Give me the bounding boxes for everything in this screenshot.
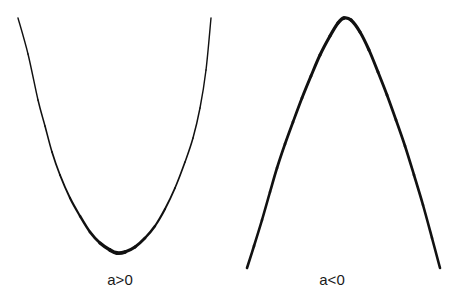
parabola-chart-canvas bbox=[0, 0, 462, 301]
parabola-figure: a>0 a<0 bbox=[0, 0, 462, 301]
panel-label-a-greater-than-zero: a>0 bbox=[107, 272, 132, 287]
chart-background bbox=[0, 0, 462, 301]
panel-label-a-less-than-zero: a<0 bbox=[319, 272, 344, 287]
